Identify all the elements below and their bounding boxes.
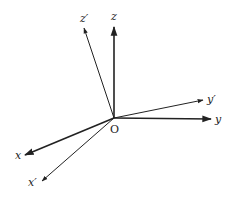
y-axis-label: y bbox=[214, 113, 222, 126]
x-axis-label: x bbox=[15, 149, 22, 162]
labels-group: zz′y′yxx′ bbox=[15, 10, 222, 189]
z-prime-axis-label: z′ bbox=[79, 12, 89, 25]
axes-group bbox=[25, 27, 211, 181]
x-prime-axis-label: x′ bbox=[28, 176, 37, 189]
z-prime-axis-arrow bbox=[84, 28, 114, 118]
y-prime-axis-label: y′ bbox=[206, 93, 216, 106]
x-prime-axis-arrow bbox=[42, 118, 114, 181]
y-axis-arrow bbox=[114, 118, 211, 119]
y-prime-axis-arrow bbox=[114, 100, 203, 118]
coordinate-diagram: zz′y′yxx′ O bbox=[0, 0, 231, 199]
x-axis-arrow bbox=[25, 118, 114, 155]
origin-label: O bbox=[110, 123, 119, 136]
z-axis-label: z bbox=[110, 10, 117, 23]
